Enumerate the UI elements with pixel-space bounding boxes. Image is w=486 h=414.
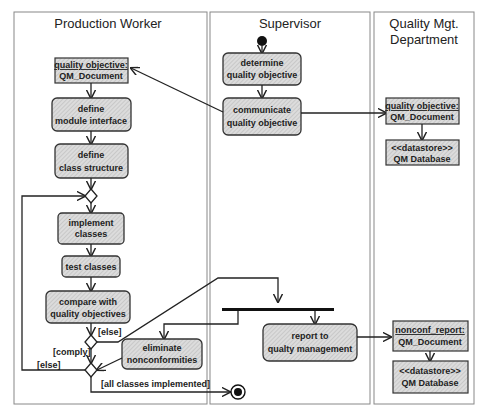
lane-title-quality-dept-1: Quality Mgt.: [389, 16, 458, 31]
activity-label: quality objectives: [50, 309, 126, 319]
activity-define-module-interface: [52, 98, 131, 131]
flow-fork-eliminate: [164, 311, 238, 339]
activity-label: module interface: [55, 116, 127, 126]
datastore-name: QM Database: [393, 154, 450, 164]
lane-title-production-worker: Production Worker: [54, 16, 162, 31]
activity-label: test classes: [65, 262, 116, 272]
activity-label: quality objective: [227, 118, 298, 128]
fork-bar: [222, 308, 334, 311]
datastore-stereotype: <<datastore>>: [399, 366, 461, 376]
lane-title-quality-dept-2: Department: [390, 32, 458, 47]
object-type: QM_Document: [398, 337, 462, 347]
datastore-name: QM Database: [401, 378, 458, 388]
guard-else-loop: [else]: [37, 360, 61, 370]
object-type: QM_Document: [59, 71, 123, 81]
activity-label: compare with: [59, 297, 117, 307]
activity-label: nonconformities: [127, 355, 198, 365]
activity-label: report to: [292, 331, 330, 341]
activity-label: communicate: [233, 105, 291, 115]
final-node-inner: [234, 388, 242, 396]
lane-title-supervisor: Supervisor: [259, 16, 322, 31]
guard-else-top: [else]: [98, 327, 122, 337]
activity-label: eliminate: [142, 343, 181, 353]
flow-eliminate-merge: [97, 358, 122, 370]
object-name: quality objective:: [54, 60, 128, 70]
activity-label: define: [78, 150, 105, 160]
activity-label: classes: [75, 229, 108, 239]
datastore-stereotype: <<datastore>>: [391, 143, 453, 153]
activity-label: qualty management: [268, 344, 353, 354]
activity-diagram: Production Worker Supervisor Quality Mgt…: [0, 0, 486, 414]
activity-communicate-quality-objective: [223, 98, 301, 135]
guard-all-classes-implemented: [all classes implemented]: [101, 379, 210, 389]
object-name: quality objective:: [385, 101, 459, 111]
object-name: nonconf_report:: [395, 325, 465, 335]
activity-label: implement: [68, 218, 113, 228]
guard-comply: [comply]: [53, 347, 91, 357]
object-type: QM_Document: [390, 112, 454, 122]
decision-node-all-implemented: [85, 363, 97, 377]
activity-label: class structure: [59, 163, 123, 173]
activity-report-quality-management: [263, 324, 357, 361]
activity-label: define: [78, 104, 105, 114]
initial-node: [257, 36, 267, 46]
activity-label: determine: [240, 58, 283, 68]
merge-node: [85, 189, 97, 203]
flow-communicate-to-worker-object: [131, 68, 223, 112]
activity-label: quality objective: [227, 70, 298, 80]
